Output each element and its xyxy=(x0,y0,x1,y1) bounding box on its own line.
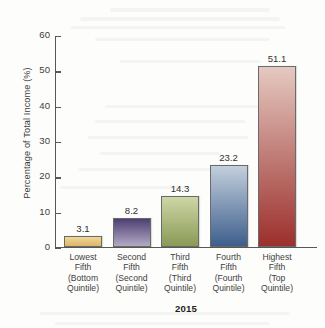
category-label-line: Fifth xyxy=(106,262,158,272)
category-label-5: HighestFifth(TopQuintile) xyxy=(251,252,303,294)
bar-chart-figure: Percentage of Total Income (%) 010203040… xyxy=(0,0,325,328)
bar-value-label: 14.3 xyxy=(171,183,190,194)
category-label-4: FourthFifth(FourthQuintile) xyxy=(203,252,255,294)
category-label-line: Second xyxy=(106,252,158,262)
y-tick-label: 50 xyxy=(39,64,50,75)
y-tick-label: 60 xyxy=(39,29,50,40)
plot-area: 0102030405060 3.18.214.323.251.1 xyxy=(55,30,317,248)
category-label-line: Lowest xyxy=(57,252,109,262)
x-axis-category-labels: LowestFifth(BottomQuintile)SecondFifth(S… xyxy=(55,252,317,298)
bar-1: 3.1 xyxy=(64,236,102,247)
category-label-line: Fifth xyxy=(154,262,206,272)
category-label-line: Quintile) xyxy=(203,283,255,293)
bar-3: 14.3 xyxy=(161,196,199,247)
category-label-1: LowestFifth(BottomQuintile) xyxy=(57,252,109,294)
category-label-line: Highest xyxy=(251,252,303,262)
category-label-line: Quintile) xyxy=(251,283,303,293)
category-label-line: (Second xyxy=(106,273,158,283)
category-label-line: Third xyxy=(154,252,206,262)
y-tick-mark xyxy=(55,248,61,249)
x-axis-title: 2015 xyxy=(55,303,317,314)
y-tick-label: 10 xyxy=(39,206,50,217)
bar-2: 8.2 xyxy=(113,218,151,247)
category-label-line: Fifth xyxy=(203,262,255,272)
bar-value-label: 23.2 xyxy=(219,152,238,163)
bar-value-label: 8.2 xyxy=(125,205,138,216)
category-label-line: (Third xyxy=(154,273,206,283)
y-tick-label: 20 xyxy=(39,170,50,181)
bar-value-label: 3.1 xyxy=(76,223,89,234)
category-label-line: (Bottom xyxy=(57,273,109,283)
category-label-line: Fifth xyxy=(57,262,109,272)
bar-value-label: 51.1 xyxy=(268,53,287,64)
category-label-line: Quintile) xyxy=(57,283,109,293)
y-tick-label: 40 xyxy=(39,100,50,111)
y-tick-label: 30 xyxy=(39,135,50,146)
y-tick-label: 0 xyxy=(45,241,50,252)
category-label-line: (Fourth xyxy=(203,273,255,283)
category-label-line: Quintile) xyxy=(154,283,206,293)
category-label-3: ThirdFifth(ThirdQuintile) xyxy=(154,252,206,294)
category-label-line: (Top xyxy=(251,273,303,283)
category-label-2: SecondFifth(SecondQuintile) xyxy=(106,252,158,294)
category-label-line: Quintile) xyxy=(106,283,158,293)
bars-group: 3.18.214.323.251.1 xyxy=(55,30,317,248)
category-label-line: Fourth xyxy=(203,252,255,262)
bar-5: 51.1 xyxy=(258,66,296,247)
category-label-line: Fifth xyxy=(251,262,303,272)
bar-4: 23.2 xyxy=(210,165,248,247)
y-axis-title: Percentage of Total Income (%) xyxy=(22,28,32,238)
